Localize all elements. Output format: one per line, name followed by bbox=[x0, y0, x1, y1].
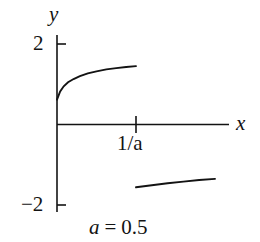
figure-container: y x 2 −2 1/a a=0.5 bbox=[0, 0, 260, 242]
y-tick-label-2: 2 bbox=[33, 33, 44, 54]
figure-caption: a=0.5 bbox=[89, 217, 148, 238]
y-axis-label: y bbox=[49, 4, 58, 25]
caption-relation: = bbox=[100, 215, 122, 239]
x-axis-label: x bbox=[236, 113, 245, 134]
caption-value: 0.5 bbox=[121, 215, 147, 239]
upper-branch-curve bbox=[57, 66, 136, 99]
y-tick-label-negative-2: −2 bbox=[21, 194, 43, 215]
lower-branch-curve bbox=[136, 179, 215, 187]
caption-symbol: a bbox=[89, 215, 100, 239]
x-tick-label-text: 1/a bbox=[117, 131, 143, 155]
x-tick-label-one-over-a: 1/a bbox=[117, 133, 143, 154]
